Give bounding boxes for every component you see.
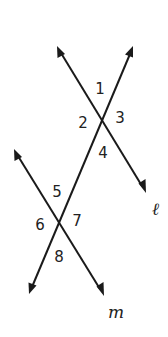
angle-1-label: 1 (95, 80, 105, 98)
angle-8-label: 8 (54, 248, 64, 266)
parallel-lines-transversal-diagram: 1 2 3 4 5 6 7 8 ℓ m (0, 0, 168, 337)
line-l-label: ℓ (152, 199, 159, 219)
arrowhead-icon (29, 283, 37, 295)
angle-4-label: 4 (98, 144, 108, 162)
line-m-label: m (108, 302, 124, 322)
angle-7-label: 7 (72, 212, 82, 230)
arrowhead-icon (125, 46, 133, 58)
angle-6-label: 6 (35, 216, 45, 234)
angle-3-label: 3 (115, 109, 125, 127)
angle-2-label: 2 (78, 114, 88, 132)
angle-5-label: 5 (52, 183, 62, 201)
